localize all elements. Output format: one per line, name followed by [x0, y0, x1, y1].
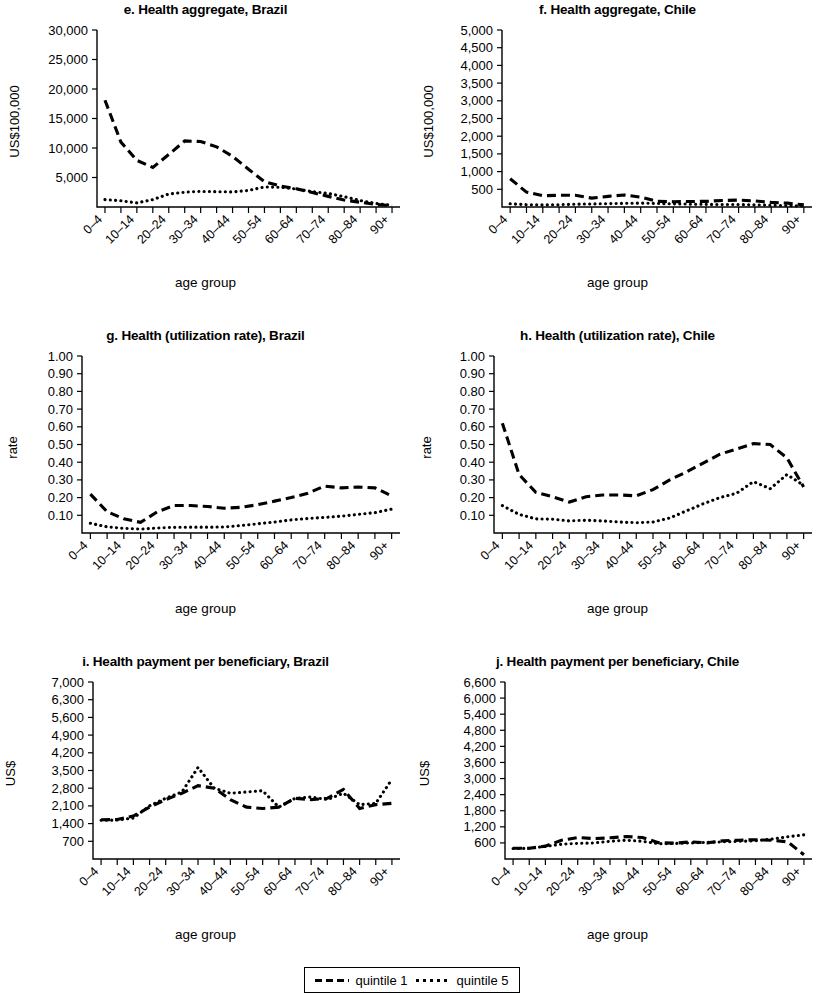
x-tick-label-group: 0–4 — [486, 212, 511, 237]
x-tick-label-group: 20–24 — [543, 864, 578, 899]
x-tick-label-group: 20–24 — [535, 538, 570, 573]
y-tick-label: 3,500 — [51, 763, 84, 778]
x-tick-label: 0–4 — [66, 538, 91, 563]
x-tick-label-group: 30–34 — [568, 538, 603, 573]
x-tick-label: 70–74 — [293, 864, 328, 899]
x-tick-label: 30–34 — [568, 538, 603, 573]
x-tick-label: 80–84 — [325, 864, 360, 899]
x-tick-label: 70–74 — [705, 864, 740, 899]
legend-item-quintile-1: quintile 1 — [315, 973, 407, 988]
x-tick-label-group: 0–4 — [478, 538, 503, 563]
panel-h-plot: rate 0.100.200.300.400.500.600.700.800.9… — [412, 348, 823, 563]
panel-j-plot: US$ 6001,2001,8002,4003,0003,6004,2004,8… — [412, 674, 823, 889]
y-tick-label: 6,000 — [463, 691, 496, 706]
x-tick-label-group: 70–74 — [294, 212, 329, 247]
x-tick-label: 10–14 — [501, 538, 536, 573]
x-tick-label: 50–54 — [635, 538, 670, 573]
panel-i-plot: US$ 7001,4002,1002,8003,5004,2004,9005,6… — [0, 674, 411, 889]
x-tick-label: 90+ — [367, 212, 392, 237]
x-tick-label-group: 70–74 — [293, 864, 328, 899]
x-tick-label: 0–4 — [486, 212, 511, 237]
figure-health-panels: e. Health aggregate, Brazil US$100,000 5… — [0, 0, 823, 998]
panel-g-plot: rate 0.100.200.300.400.500.600.700.800.9… — [0, 348, 411, 563]
y-tick-label: 2,100 — [51, 798, 84, 813]
legend: quintile 1 quintile 5 — [304, 967, 520, 993]
y-tick-label: 0.90 — [460, 366, 485, 381]
x-tick-label-group: 40–44 — [602, 538, 637, 573]
x-tick-label: 60–64 — [669, 538, 704, 573]
x-tick-label-group: 40–44 — [608, 864, 643, 899]
y-tick-label: 4,200 — [463, 739, 496, 754]
x-tick-label-group: 80–84 — [326, 212, 361, 247]
x-tick-label: 70–74 — [702, 538, 737, 573]
panel-h-svg: 0.100.200.300.400.500.600.700.800.901.00… — [412, 348, 823, 563]
x-tick-label-group: 10–14 — [508, 212, 543, 247]
x-tick-label-group: 20–24 — [123, 538, 158, 573]
x-tick-label: 40–44 — [608, 864, 643, 899]
x-tick-label-group: 30–34 — [164, 864, 199, 899]
x-tick-label: 30–34 — [166, 212, 201, 247]
x-tick-label-group: 20–24 — [134, 212, 169, 247]
y-tick-label: 5,000 — [460, 23, 493, 38]
panel-f-svg: 5001,0001,5002,0002,5003,0003,5004,0004,… — [412, 22, 823, 237]
y-tick-label: 10,000 — [48, 141, 88, 156]
x-tick-label: 0–4 — [478, 538, 503, 563]
x-tick-label: 40–44 — [196, 864, 231, 899]
panel-j-svg: 6001,2001,8002,4003,0003,6004,2004,8005,… — [412, 674, 823, 889]
panel-h: h. Health (utilization rate), Chile rate… — [412, 326, 823, 651]
y-tick-label: 2,000 — [460, 129, 493, 144]
x-tick-label: 40–44 — [606, 212, 641, 247]
y-tick-label: 5,000 — [55, 170, 88, 185]
y-tick-label: 6,300 — [51, 692, 84, 707]
x-tick-label-group: 70–74 — [290, 538, 325, 573]
y-tick-label: 15,000 — [48, 111, 88, 126]
y-tick-label: 1,800 — [463, 803, 496, 818]
y-tick-label: 5,400 — [463, 707, 496, 722]
x-tick-label: 60–64 — [673, 864, 708, 899]
x-tick-label-group: 80–84 — [737, 864, 772, 899]
x-tick-label-group: 10–14 — [511, 864, 546, 899]
x-tick-label-group: 40–44 — [190, 538, 225, 573]
x-tick-label: 90+ — [367, 538, 392, 563]
x-tick-label-group: 50–54 — [635, 538, 670, 573]
x-tick-label: 10–14 — [103, 212, 138, 247]
x-tick-label-group: 90+ — [367, 538, 392, 563]
x-tick-label-group: 0–4 — [77, 864, 102, 889]
panel-i: i. Health payment per beneficiary, Brazi… — [0, 652, 411, 977]
x-tick-label: 20–24 — [535, 538, 570, 573]
y-tick-label: 0.40 — [48, 455, 73, 470]
panel-g-xlabel: age group — [0, 601, 411, 616]
x-tick-label: 10–14 — [508, 212, 543, 247]
y-tick-label: 0.60 — [460, 419, 485, 434]
legend-label-quintile-5: quintile 5 — [456, 973, 508, 988]
panel-i-svg: 7001,4002,1002,8003,5004,2004,9005,6006,… — [0, 674, 411, 889]
y-tick-label: 3,500 — [460, 76, 493, 91]
x-tick-label-group: 80–84 — [736, 538, 771, 573]
y-tick-label: 500 — [471, 182, 493, 197]
dotted-line-icon — [416, 979, 450, 982]
x-tick-label-group: 90+ — [779, 212, 804, 237]
y-tick-label: 1,500 — [460, 146, 493, 161]
x-tick-label: 10–14 — [511, 864, 546, 899]
panel-e: e. Health aggregate, Brazil US$100,000 5… — [0, 0, 411, 325]
x-tick-label-group: 20–24 — [541, 212, 576, 247]
x-tick-label: 80–84 — [737, 212, 772, 247]
x-tick-label: 0–4 — [80, 212, 105, 237]
y-tick-label: 0.40 — [460, 455, 485, 470]
y-tick-label: 6,600 — [463, 675, 496, 690]
y-tick-label: 3,600 — [463, 755, 496, 770]
y-tick-label: 0.20 — [460, 490, 485, 505]
legend-label-quintile-1: quintile 1 — [355, 973, 407, 988]
y-tick-label: 0.90 — [48, 366, 73, 381]
series-quintile-5 — [502, 475, 803, 523]
x-tick-label: 10–14 — [89, 538, 124, 573]
x-tick-label-group: 30–34 — [574, 212, 609, 247]
y-tick-label: 1,400 — [51, 816, 84, 831]
x-tick-label: 70–74 — [294, 212, 329, 247]
x-tick-label: 10–14 — [99, 864, 134, 899]
x-tick-label-group: 70–74 — [705, 864, 740, 899]
x-tick-label-group: 50–54 — [639, 212, 674, 247]
y-tick-label: 4,500 — [460, 40, 493, 55]
x-tick-label-group: 40–44 — [606, 212, 641, 247]
x-tick-label-group: 50–54 — [223, 538, 258, 573]
